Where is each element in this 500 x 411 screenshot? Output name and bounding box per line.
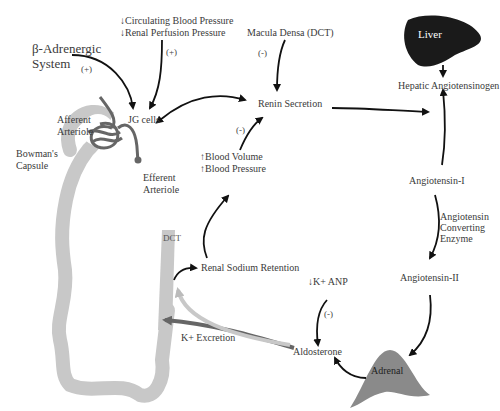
renal-sodium-retention-label: Renal Sodium Retention bbox=[201, 262, 299, 274]
afferent-line2: Arteriole bbox=[57, 126, 93, 138]
nephron-tubule bbox=[59, 112, 175, 396]
macula-densa-label: Macula Densa (DCT) bbox=[247, 27, 334, 39]
ace-label: Angiotensin Converting Enzyme bbox=[440, 211, 489, 244]
blood-volume-label: ↑Blood Volume bbox=[200, 151, 263, 163]
angiotensin-2-label: Angiotensin-II bbox=[400, 272, 459, 284]
afferent-arteriole-label: Afferent Arteriole bbox=[57, 114, 93, 138]
anp-minus-sign: (-) bbox=[324, 308, 333, 320]
pressure-plus-sign: (+) bbox=[166, 46, 177, 58]
jg-cells-label: JG cells bbox=[128, 114, 160, 126]
adrenal-label: Adrenal bbox=[371, 365, 403, 377]
efferent-line2: Arteriole bbox=[143, 184, 179, 196]
adrenal-shape bbox=[350, 350, 430, 408]
afferent-line1: Afferent bbox=[57, 114, 93, 126]
efferent-line1: Efferent bbox=[143, 172, 179, 184]
hepatic-angiotensinogen-label: Hepatic Angiotensinogen bbox=[398, 80, 499, 92]
efferent-arteriole-label: Efferent Arteriole bbox=[143, 172, 179, 196]
blood-pressure-label: ↑Blood Pressure bbox=[200, 163, 266, 175]
bowmans-line2: Capsule bbox=[16, 160, 58, 172]
ace-line1: Angiotensin bbox=[440, 211, 489, 222]
macula-minus-sign: (-) bbox=[258, 47, 267, 59]
dct-label: DCT bbox=[163, 232, 181, 244]
liver-shape bbox=[404, 16, 481, 67]
raas-diagram: β-Adrenergic System (+) ↓Circulating Blo… bbox=[0, 0, 500, 411]
renin-secretion-label: Renin Secretion bbox=[258, 98, 322, 110]
k-excretion-label: K+ Excretion bbox=[181, 332, 235, 344]
liver-label: Liver bbox=[418, 27, 442, 42]
k-anp-label: ↓K+ ANP bbox=[308, 276, 348, 288]
renal-perfusion-label: ↓Renal Perfusion Pressure bbox=[120, 27, 226, 39]
angiotensin-1-label: Angiotensin-I bbox=[409, 175, 465, 187]
beta-adrenergic-line1: β-Adrenergic bbox=[32, 41, 101, 56]
ace-line2: Converting bbox=[440, 222, 489, 233]
aldosterone-label: Aldosterone bbox=[293, 346, 342, 358]
bowmans-capsule-label: Bowman's Capsule bbox=[16, 148, 58, 172]
circulating-bp-label: ↓Circulating Blood Pressure bbox=[120, 15, 233, 27]
bowmans-line1: Bowman's bbox=[16, 148, 58, 160]
beta-plus-sign: (+) bbox=[81, 63, 92, 75]
ace-line3: Enzyme bbox=[440, 233, 489, 244]
volume-minus-sign: (-) bbox=[236, 124, 245, 136]
